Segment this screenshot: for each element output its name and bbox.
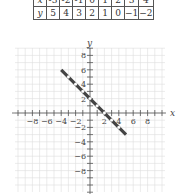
y-axis-label: y	[86, 38, 93, 48]
data-point	[67, 76, 70, 79]
data-point	[74, 83, 77, 86]
x-tick-label: −8	[27, 117, 39, 126]
data-point	[110, 119, 113, 122]
data-point	[89, 97, 92, 100]
y-tick-label: 8	[81, 51, 86, 60]
y-tick-label: −4	[74, 138, 86, 147]
x-tick-label: 2	[102, 117, 107, 126]
y-tick-label: −6	[74, 152, 86, 161]
y-tick-label: 4	[81, 80, 86, 89]
y-tick-label: −2	[74, 123, 86, 132]
data-point	[117, 126, 120, 129]
x-tick-label: −6	[41, 117, 53, 126]
x-tick-label: 6	[131, 117, 136, 126]
coordinate-graph: −8−6−4−224688642−2−4−6−8 x y	[0, 0, 180, 194]
x-tick-label: −4	[55, 117, 67, 126]
y-tick-label: −8	[74, 167, 86, 176]
data-point	[96, 104, 99, 107]
x-axis-label: x	[170, 108, 175, 118]
data-point	[103, 112, 106, 115]
y-tick-label: 6	[81, 66, 86, 75]
x-tick-label: 8	[145, 117, 150, 126]
data-point	[81, 90, 84, 93]
